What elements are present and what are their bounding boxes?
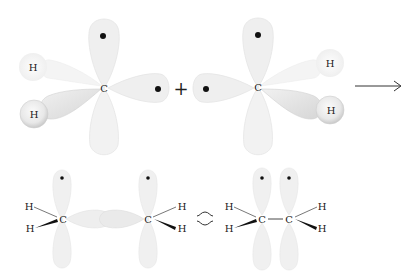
p-orbital-lobe-up — [280, 168, 298, 215]
electron-dot — [260, 176, 264, 180]
top-left-fragment: H H C — [19, 19, 169, 155]
hydrogen-label: H — [225, 223, 234, 234]
wedge-bond — [35, 219, 58, 228]
p-orbital-lobe-down — [244, 87, 273, 155]
p-orbital-lobe-down — [139, 219, 157, 268]
hydrogen-label: H — [225, 201, 234, 212]
carbon-label: C — [258, 214, 266, 225]
wedge-bond — [234, 219, 257, 228]
wedge-bond — [295, 219, 317, 230]
electron-dot — [60, 176, 64, 180]
equivalence-symbol-icon — [197, 212, 213, 225]
hydrogen-label: H — [25, 201, 34, 212]
top-right-fragment: H H C — [193, 18, 344, 155]
plus-operator: + — [173, 78, 188, 99]
p-orbital-lobe-up — [89, 19, 119, 88]
electron-dot — [100, 33, 106, 39]
bottom-orbital-picture: H H C H H C — [25, 170, 187, 268]
carbon-label: C — [285, 214, 293, 225]
bond-line — [153, 207, 176, 217]
hydrogen-label: H — [318, 201, 327, 212]
electron-dot — [203, 86, 209, 92]
carbon-label: C — [59, 214, 67, 225]
reaction-arrow-icon — [355, 81, 401, 91]
p-orbital-lobe-down — [53, 219, 71, 268]
bottom-bond-line-picture: H H C C H H — [225, 168, 327, 270]
hydrogen-label: H — [26, 223, 35, 234]
electron-dot — [255, 32, 261, 38]
electron-dot — [155, 86, 161, 92]
p-orbital-lobe-down — [280, 223, 298, 270]
hydrogen-label: H — [326, 58, 335, 69]
bond-line — [234, 207, 256, 217]
electron-dot — [146, 176, 150, 180]
hydrogen-label: H — [178, 223, 187, 234]
p-orbital-lobe-up — [243, 18, 273, 87]
p-orbital-lobe-up — [253, 168, 271, 215]
bond-lobe-lower — [40, 89, 101, 119]
sigma-overlap-lobe — [100, 210, 145, 228]
hydrogen-label: H — [178, 201, 187, 212]
hydrogen-label: H — [327, 105, 336, 116]
hydrogen-label: H — [29, 62, 38, 73]
carbon-label: C — [254, 82, 262, 93]
bond-line — [295, 207, 317, 217]
hydrogen-label: H — [30, 109, 39, 120]
wedge-bond — [154, 219, 176, 230]
hydrogen-label: H — [318, 223, 327, 234]
sp-orbital-lobe-left — [193, 74, 254, 103]
orbital-diagram: H H C + H H C — [0, 0, 412, 278]
bond-lobe-lower — [261, 89, 322, 119]
p-orbital-lobe-down — [253, 223, 271, 270]
electron-dot — [287, 176, 291, 180]
p-orbital-lobe-down — [90, 88, 119, 155]
carbon-label: C — [144, 214, 152, 225]
bond-line — [34, 207, 57, 217]
carbon-label: C — [100, 83, 108, 94]
